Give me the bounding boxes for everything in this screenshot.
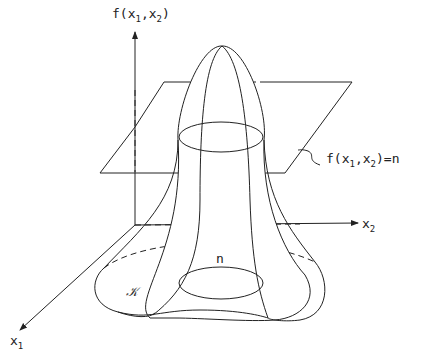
- leader-line: [298, 150, 320, 165]
- x1-axis: [20, 225, 135, 330]
- domain-label: 𝒦: [126, 284, 142, 299]
- diagram-canvas: f(x1,x2) x2 x1 f(x1,x2)=n n 𝒦: [0, 0, 424, 355]
- level-plane-left-edge: [135, 82, 164, 127]
- x1-axis-label: x1: [10, 333, 23, 351]
- f-axis-label: f(x1,x2): [112, 6, 170, 24]
- level-set-diagram: f(x1,x2) x2 x1 f(x1,x2)=n n 𝒦: [0, 0, 424, 355]
- plane-label: f(x1,x2)=n: [326, 151, 399, 169]
- x2-axis-label: x2: [362, 216, 375, 234]
- level-set-label: n: [216, 251, 224, 266]
